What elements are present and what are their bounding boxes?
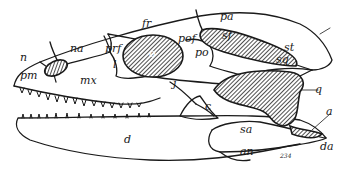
label-j: j <box>173 78 176 89</box>
label-po: po <box>195 47 209 58</box>
label-prf: prf <box>105 43 121 54</box>
label-na: na <box>70 43 84 54</box>
label-sa: sa <box>240 124 252 135</box>
label-o: o <box>149 48 156 59</box>
label-n: n <box>20 52 27 63</box>
label-pof: pof <box>178 33 196 44</box>
label-an: an <box>240 146 254 157</box>
label-c: c <box>205 101 211 112</box>
label-st: st <box>284 42 294 53</box>
label-l: l <box>113 59 117 70</box>
label-q: q <box>315 84 322 95</box>
label-pm: pm <box>20 70 37 81</box>
skull-diagram: n na pm mx prf l o fr pof po j pa sf st … <box>0 0 346 172</box>
label-sf: sf <box>222 30 232 41</box>
label-da: da <box>320 141 334 152</box>
label-sq: sq <box>276 54 289 65</box>
label-d: d <box>124 134 131 145</box>
label-mx: mx <box>80 75 97 86</box>
label-pa: pa <box>220 11 234 22</box>
label-a: a <box>326 106 333 117</box>
figure-number: 234 <box>280 153 291 159</box>
label-fr: fr <box>142 18 151 29</box>
